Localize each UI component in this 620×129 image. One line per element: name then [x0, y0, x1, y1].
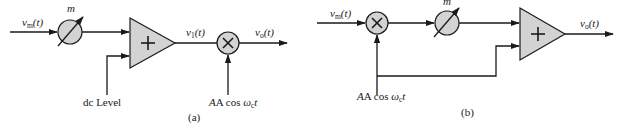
intermediate-label: v1(t)	[186, 26, 205, 40]
carrier-label-a: AA cos ωct	[208, 96, 258, 110]
input-label-a: vm(t)	[22, 16, 43, 30]
dc-level-line	[107, 56, 129, 95]
caption-b: (b)	[461, 106, 474, 119]
caption-a: (a)	[188, 111, 201, 124]
multiplier-block-a	[217, 32, 239, 54]
attenuator-label-a: m	[67, 2, 75, 14]
dc-level-label: dc Level	[83, 96, 121, 108]
attenuator-label-b: m	[443, 0, 451, 7]
block-diagrams: vm(t) m dc Level v1(t)	[0, 0, 620, 129]
output-label-a: vo(t)	[255, 26, 274, 40]
input-label-b: vm(t)	[330, 7, 351, 21]
carrier-label-b: AA cos ωct	[356, 90, 406, 104]
multiplier-block-b	[366, 12, 388, 34]
summer-block-a	[130, 18, 175, 68]
summer-block-b	[520, 8, 565, 60]
figure-a: vm(t) m dc Level v1(t)	[10, 2, 287, 124]
attenuator-block-a	[58, 17, 83, 46]
carrier-bypass-line-b	[377, 46, 519, 76]
attenuator-block-b	[434, 8, 459, 37]
figure-b: vm(t) m	[317, 0, 613, 119]
output-label-b: vo(t)	[580, 17, 599, 31]
